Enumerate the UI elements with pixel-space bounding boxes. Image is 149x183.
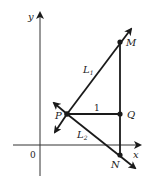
label-M: M (125, 37, 137, 48)
y-axis-label: y (27, 11, 34, 22)
label-L1: L1 (82, 64, 93, 76)
line-L2 (67, 114, 135, 168)
point-M (117, 39, 122, 44)
label-L2: L2 (76, 129, 88, 141)
coordinate-diagram: y x 0 M P Q N 1 L1 L2 (0, 0, 149, 183)
label-P: P (54, 110, 62, 121)
segment-PQ-label: 1 (94, 103, 100, 113)
label-N: N (110, 159, 121, 170)
origin-label: 0 (30, 150, 36, 160)
x-axis-label: x (133, 149, 139, 160)
point-N (117, 152, 122, 157)
point-Q (117, 111, 122, 116)
point-P (64, 111, 70, 117)
label-Q: Q (127, 109, 135, 120)
